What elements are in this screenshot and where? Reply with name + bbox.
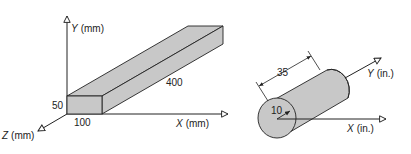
figure-b-cylinder: 35 10 Y(in.) X(in.) [256,51,394,138]
z-axis-label: Z(mm) [1,130,34,141]
length-dimension-label: 35 [277,67,289,78]
length-extension-line-right [308,51,320,70]
bar-front-face [67,96,102,114]
cyl-x-axis-label: X(in.) [346,123,374,134]
x-axis-label: X(mm) [175,118,209,129]
y-axis-label: Y(mm) [71,23,104,34]
cylinder-front-cap [258,98,296,138]
height-dimension-label: 50 [52,100,64,111]
length-dimension-label: 400 [166,77,183,88]
radius-dimension-label: 10 [271,105,283,116]
width-dimension-label: 100 [74,117,91,128]
figure-a-bar: Y(mm) X(mm) Z(mm) 50 100 400 [1,16,228,141]
length-extension-line-left [256,82,268,101]
cyl-y-axis-line [345,58,381,78]
z-axis-line [38,114,67,131]
diagram-canvas: Y(mm) X(mm) Z(mm) 50 100 400 35 10 Y(in.… [0,0,411,154]
cyl-y-axis-label: Y(in.) [367,68,394,79]
